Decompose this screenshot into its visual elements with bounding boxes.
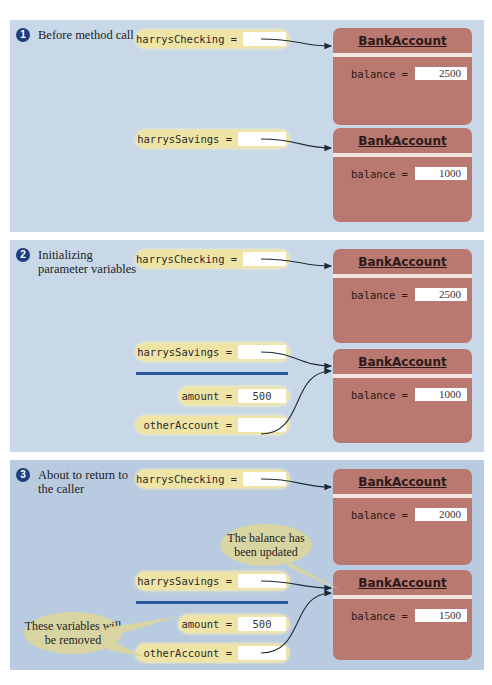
variable-name: amount = xyxy=(181,390,238,402)
reference-slot xyxy=(238,132,286,146)
parameter-amount: amount = 500 xyxy=(179,387,289,405)
parameter-other-account: otherAccount = xyxy=(136,416,289,434)
step-label: Initializing parameter variables xyxy=(38,248,138,276)
field-value: 1500 xyxy=(415,609,467,622)
variable-harrys-checking: harrysChecking = xyxy=(136,30,289,48)
step-header: 2 Initializing parameter variables xyxy=(16,248,138,276)
reference-slot xyxy=(238,418,286,432)
bank-account-object: BankAccount balance =2500 xyxy=(333,249,472,343)
bank-account-object: BankAccount balance =1000 xyxy=(333,128,472,222)
variable-name: otherAccount = xyxy=(143,419,238,431)
parameter-amount: amount = 500 xyxy=(179,615,289,633)
variable-name: harrysSavings = xyxy=(137,575,238,587)
field-name: balance = xyxy=(351,610,415,622)
field-value: 2500 xyxy=(415,67,467,80)
bank-account-object: BankAccount balance =1500 xyxy=(333,570,472,660)
step-header: 3 About to return to the caller xyxy=(16,468,138,496)
reference-slot xyxy=(243,32,286,46)
bank-account-object: BankAccount balance =2000 xyxy=(333,469,472,565)
object-class-name: BankAccount xyxy=(333,570,472,599)
panel-initializing-parameters: 2 Initializing parameter variables harry… xyxy=(10,240,484,452)
object-class-name: BankAccount xyxy=(333,128,472,157)
object-class-name: BankAccount xyxy=(333,349,472,378)
field-name: balance = xyxy=(351,289,415,301)
field-name: balance = xyxy=(351,168,415,180)
reference-slot xyxy=(238,574,286,588)
scope-divider xyxy=(136,601,288,604)
callout-balance-updated: The balance has been updated xyxy=(220,524,312,566)
reference-slot xyxy=(243,252,286,266)
scope-divider xyxy=(136,372,288,375)
variable-harrys-savings: harrysSavings = xyxy=(136,572,289,590)
bank-account-object: BankAccount balance =2500 xyxy=(333,28,472,125)
field-value: 2000 xyxy=(415,508,467,521)
field-name: balance = xyxy=(351,389,415,401)
object-class-name: BankAccount xyxy=(333,469,472,498)
variable-harrys-savings: harrysSavings = xyxy=(136,130,289,148)
variable-name: harrysChecking = xyxy=(136,33,243,45)
variable-harrys-checking: harrysChecking = xyxy=(136,250,289,268)
parameter-other-account: otherAccount = xyxy=(136,644,289,662)
variable-name: harrysChecking = xyxy=(136,253,243,265)
object-class-name: BankAccount xyxy=(333,28,472,57)
variable-name: harrysSavings = xyxy=(137,133,238,145)
variable-name: harrysSavings = xyxy=(137,346,238,358)
variable-harrys-checking: harrysChecking = xyxy=(136,470,289,488)
reference-slot xyxy=(243,472,286,486)
variable-value: 500 xyxy=(238,617,286,631)
step-label: About to return to the caller xyxy=(38,468,138,496)
object-class-name: BankAccount xyxy=(333,249,472,278)
field-value: 1000 xyxy=(415,167,467,180)
step-number-badge: 1 xyxy=(16,28,30,42)
variable-name: amount = xyxy=(181,618,238,630)
panel-before-method-call: 1 Before method call harrysChecking = ha… xyxy=(10,20,484,232)
variable-harrys-savings: harrysSavings = xyxy=(136,343,289,361)
callout-variables-removed: These variables will be removed xyxy=(24,612,122,654)
field-value: 1000 xyxy=(415,388,467,401)
variable-value: 500 xyxy=(238,389,286,403)
step-number-badge: 3 xyxy=(16,468,30,482)
field-value: 2500 xyxy=(415,288,467,301)
reference-slot xyxy=(238,646,286,660)
field-name: balance = xyxy=(351,68,415,80)
reference-slot xyxy=(238,345,286,359)
step-number-badge: 2 xyxy=(16,248,30,262)
variable-name: otherAccount = xyxy=(143,647,238,659)
panel-about-to-return: 3 About to return to the caller harrysCh… xyxy=(10,460,484,670)
bank-account-object: BankAccount balance =1000 xyxy=(333,349,472,443)
field-name: balance = xyxy=(351,509,415,521)
variable-name: harrysChecking = xyxy=(136,473,243,485)
